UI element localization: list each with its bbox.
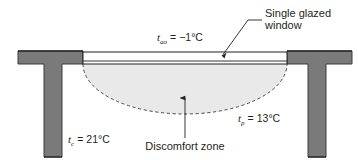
building-section-figure: Single glazed window Discomfort zone tao… — [0, 0, 358, 160]
svg-text:tp=13°C: tp=13°C — [238, 112, 281, 127]
t-ao-equals: = — [170, 31, 176, 43]
window-frame-outline — [83, 52, 287, 64]
temperature-label-indoor-core: tc=21°C — [68, 133, 110, 148]
t-p-value: 13°C — [257, 112, 281, 124]
t-ao-value: −1°C — [179, 31, 203, 43]
t-ao-subscript: ao — [160, 38, 168, 46]
window-leader-line — [222, 20, 248, 56]
t-p-equals: = — [248, 112, 254, 124]
right-wall — [287, 51, 352, 157]
t-p-subscript: p — [240, 119, 245, 127]
right-wall-body — [287, 51, 352, 157]
temperature-label-pane-surface: tp=13°C — [238, 112, 281, 127]
window-callout-line1: Single glazed — [265, 7, 331, 19]
window-callout-line2: window — [264, 19, 302, 31]
section-drawing: Single glazed window Discomfort zone tao… — [0, 0, 358, 160]
single-glazed-window — [83, 52, 287, 64]
t-c-value: 21°C — [86, 133, 110, 145]
svg-text:tao=−1°C: tao=−1°C — [157, 31, 203, 46]
t-c-equals: = — [77, 133, 83, 145]
t-c-subscript: c — [71, 140, 75, 148]
svg-text:tc=21°C: tc=21°C — [68, 133, 110, 148]
temperature-label-outdoor-air: tao=−1°C — [157, 31, 203, 46]
discomfort-zone-label: Discomfort zone — [145, 140, 224, 152]
